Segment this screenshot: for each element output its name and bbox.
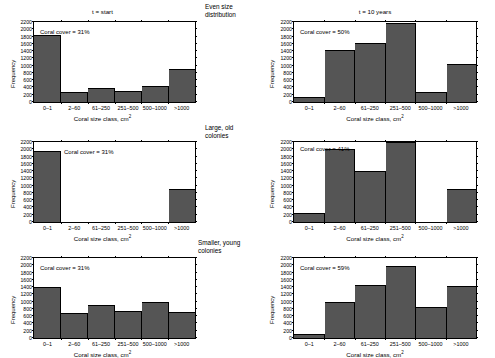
y-axis-tick-label: 1000 (280, 299, 292, 304)
y-axis-tick-label: 2200 (280, 256, 292, 261)
panel-bottom-left: Coral cover = 31% 0200400600800100012001… (0, 244, 205, 356)
y-axis-tick-mark (476, 315, 478, 316)
x-axis-tick-mark (324, 256, 325, 258)
x-axis-tick-mark (446, 222, 447, 224)
histogram-bar (169, 312, 195, 338)
y-axis-tick-mark (32, 148, 34, 149)
x-axis-tick-mark (61, 222, 62, 224)
panel-middle-right: Coral cover = 41% 0200400600800100012001… (255, 128, 495, 240)
histogram-bar (34, 287, 61, 338)
y-axis-tick-mark (292, 206, 294, 207)
y-axis-tick-mark (476, 337, 478, 338)
y-axis-tick-label: 800 (283, 190, 292, 195)
x-axis-tick-mark (446, 140, 447, 142)
y-axis-tick-mark (476, 86, 478, 87)
y-axis-tick-label: 1800 (20, 270, 32, 275)
x-axis-label-sup: 2 (401, 114, 403, 119)
y-axis-tick-label: 1600 (20, 161, 32, 166)
x-axis-tick-mark (385, 256, 386, 258)
x-axis-tick-label: 500–1000 (143, 225, 167, 231)
histogram-bar (416, 307, 447, 338)
x-axis-tick-mark (355, 20, 356, 22)
y-axis-tick-mark (195, 79, 197, 80)
y-axis-tick-mark (195, 156, 197, 157)
x-axis-label-sup: 2 (129, 234, 131, 239)
y-axis-tick-mark (195, 322, 197, 323)
bars-group (34, 142, 195, 222)
y-axis-tick-label: 800 (23, 306, 32, 311)
coral-cover-annotation: Coral cover = 41% (300, 146, 350, 153)
y-axis-tick-mark (476, 272, 478, 273)
y-axis-tick-mark (292, 301, 294, 302)
row-label-line: distribution (205, 11, 236, 19)
histogram-bar (355, 285, 386, 338)
y-axis-tick-mark (195, 185, 197, 186)
x-axis-tick-mark (141, 20, 142, 22)
row-label-even-size: Even size distribution (205, 3, 236, 19)
y-axis-tick-mark (195, 301, 197, 302)
y-axis-tick-label: 1600 (280, 277, 292, 282)
y-axis-tick-mark (195, 308, 197, 309)
y-axis-tick-mark (292, 322, 294, 323)
x-axis-label-sup: 2 (401, 350, 403, 355)
panel-middle-left: Coral cover = 31% 0200400600800100012001… (0, 128, 205, 240)
x-axis-tick-mark (115, 256, 116, 258)
y-axis-tick-label: 1400 (20, 169, 32, 174)
x-axis-tick-label: >1000 (174, 105, 189, 111)
y-axis-tick-label: 400 (23, 205, 32, 210)
y-axis-tick-mark (32, 214, 34, 215)
y-axis-tick-label: 600 (283, 314, 292, 319)
y-axis-tick-mark (32, 163, 34, 164)
x-axis-tick-mark (168, 338, 169, 340)
x-axis-tick-mark (324, 338, 325, 340)
x-axis-tick-mark (446, 102, 447, 104)
y-axis-tick-mark (292, 21, 294, 22)
y-axis-label: Frequency (269, 60, 275, 88)
x-axis-tick-label: 0–1 (43, 105, 52, 111)
x-axis-label-text: Coral size class, cm (346, 115, 401, 122)
x-axis-tick-mark (355, 222, 356, 224)
x-axis-tick-label: 500–1000 (419, 225, 443, 231)
x-axis-tick-label: 2–60 (334, 341, 346, 347)
y-axis-tick-label: 200 (283, 328, 292, 333)
histogram-bar (169, 189, 195, 222)
panel-title: t = 10 years (255, 8, 495, 16)
y-axis-tick-label: 1400 (280, 285, 292, 290)
y-axis-tick-mark (476, 72, 478, 73)
y-axis-tick-mark (476, 279, 478, 280)
x-axis-tick-mark (355, 256, 356, 258)
y-axis-tick-mark (292, 50, 294, 51)
histogram-bar (294, 334, 325, 338)
y-axis-tick-mark (476, 330, 478, 331)
y-axis-tick-mark (32, 264, 34, 265)
x-axis-tick-label: 251–500 (117, 105, 138, 111)
y-axis-tick-label: 2200 (280, 20, 292, 25)
y-axis-tick-mark (195, 21, 197, 22)
y-axis-tick-mark (476, 199, 478, 200)
histogram-bar (61, 313, 88, 338)
y-axis-tick-mark (32, 57, 34, 58)
histogram-bar (115, 311, 142, 338)
y-axis-tick-mark (476, 301, 478, 302)
x-axis-label-sup: 2 (401, 234, 403, 239)
y-axis-tick-mark (195, 293, 197, 294)
x-axis-tick-label: >1000 (174, 225, 189, 231)
y-axis-tick-mark (292, 279, 294, 280)
x-axis-label-sup: 2 (129, 114, 131, 119)
y-axis-tick-label: 800 (23, 190, 32, 195)
x-axis-tick-mark (61, 338, 62, 340)
y-axis-tick-mark (476, 308, 478, 309)
x-axis-tick-mark (61, 256, 62, 258)
y-axis-tick-label: 1600 (20, 277, 32, 282)
y-axis-tick-mark (32, 221, 34, 222)
y-axis-tick-mark (292, 214, 294, 215)
row-label-line: Even size (205, 3, 236, 11)
coral-cover-annotation: Coral cover = 31% (40, 29, 90, 36)
x-axis-tick-mark (88, 140, 89, 142)
y-axis-tick-label: 600 (23, 78, 32, 83)
y-axis-tick-mark (476, 79, 478, 80)
y-axis-tick-mark (476, 206, 478, 207)
y-axis-tick-label: 200 (283, 212, 292, 217)
y-axis-tick-mark (195, 330, 197, 331)
y-axis-tick-mark (292, 141, 294, 142)
